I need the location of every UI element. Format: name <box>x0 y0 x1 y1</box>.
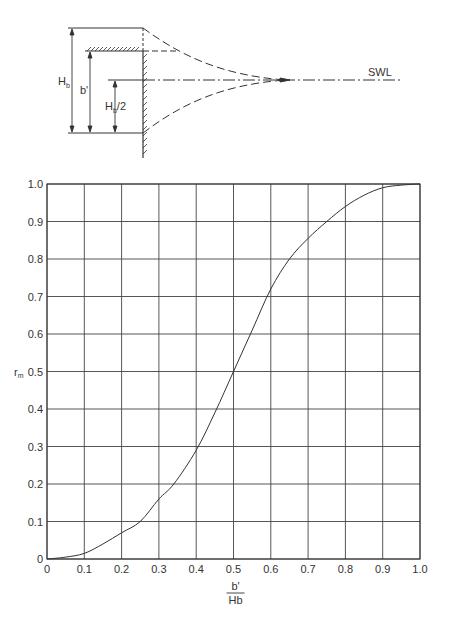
x-tick-label: 0.7 <box>300 563 315 575</box>
label-swl: SWL <box>368 66 392 78</box>
x-tick-label: 0.1 <box>77 563 92 575</box>
x-tick-label: 0.5 <box>226 563 241 575</box>
x-axis-label-numerator: b' <box>231 580 239 592</box>
hatch-wall <box>143 54 147 154</box>
rm-chart: 00.10.20.30.40.50.60.70.80.91.000.10.20.… <box>14 178 428 606</box>
y-tick-label: 0 <box>37 553 43 565</box>
x-tick-label: 0.8 <box>338 563 353 575</box>
y-tick-label: 0.9 <box>28 216 43 228</box>
label-bprime: b' <box>80 84 88 96</box>
label-hb-half: Hb/2 <box>105 100 126 114</box>
figure: Hb b' Hb/2 SWL 00.10.20.30.40.50.60.70.8… <box>0 0 449 621</box>
x-tick-label: 0.9 <box>375 563 390 575</box>
convergence-arrow <box>280 78 290 82</box>
y-tick-label: 0.4 <box>28 403 43 415</box>
y-tick-label: 0.3 <box>28 441 43 453</box>
upper-envelope <box>143 28 285 80</box>
y-tick-label: 0.7 <box>28 291 43 303</box>
y-tick-label: 0.6 <box>28 328 43 340</box>
y-tick-label: 0.8 <box>28 253 43 265</box>
y-tick-label: 0.1 <box>28 516 43 528</box>
x-tick-label: 0 <box>44 563 50 575</box>
x-axis-label-denominator: Hb <box>228 594 242 606</box>
y-tick-label: 0.5 <box>28 366 43 378</box>
lower-envelope <box>143 80 285 133</box>
y-tick-label: 1.0 <box>28 178 43 190</box>
x-tick-label: 0.6 <box>263 563 278 575</box>
wave-setup-diagram <box>68 28 400 158</box>
y-axis-label: rm <box>14 366 24 379</box>
x-tick-label: 1.0 <box>412 563 427 575</box>
x-tick-label: 0.2 <box>114 563 129 575</box>
y-tick-label: 0.2 <box>28 478 43 490</box>
label-hb: Hb <box>58 75 70 89</box>
x-tick-label: 0.3 <box>151 563 166 575</box>
diagram-labels: Hb b' Hb/2 SWL <box>58 66 392 114</box>
x-tick-label: 0.4 <box>189 563 204 575</box>
